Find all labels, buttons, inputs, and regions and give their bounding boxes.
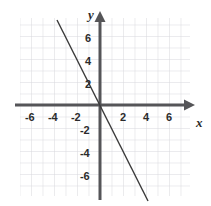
graph-canvas: [0, 0, 211, 206]
y-tick-label: 6: [85, 33, 91, 44]
y-tick-label: -2: [80, 125, 89, 136]
x-axis-label: x: [196, 116, 203, 129]
grid-background: [20, 18, 190, 196]
x-tick-label: -2: [71, 112, 80, 123]
x-tick-label: 6: [166, 112, 172, 123]
arrow-up-icon: [95, 11, 106, 22]
y-tick-label: 4: [85, 56, 91, 67]
x-tick-label: -6: [25, 112, 34, 123]
x-tick-label: -4: [48, 112, 57, 123]
coordinate-plane-figure: y x -6 -4 -2 2 4 6 6 4 2 -2 -4 -6: [0, 0, 211, 206]
x-tick-label: 2: [120, 112, 126, 123]
y-tick-label: 2: [85, 79, 91, 90]
x-tick-label: 4: [143, 112, 149, 123]
y-tick-label: -6: [80, 171, 89, 182]
y-tick-label: -4: [80, 148, 89, 159]
y-axis-label: y: [88, 8, 94, 21]
